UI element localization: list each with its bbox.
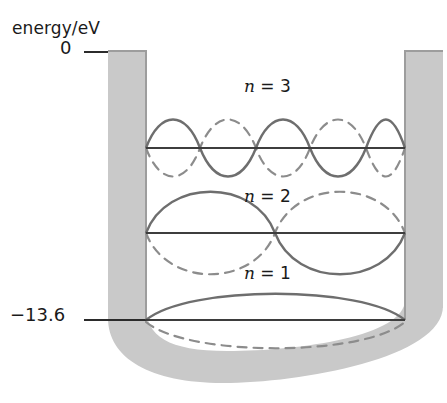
level-n2-group xyxy=(146,192,405,275)
level-n3-group xyxy=(146,120,405,177)
well-right-wall xyxy=(405,50,443,308)
wave-n1-solid xyxy=(146,294,405,320)
diagram-canvas xyxy=(0,0,447,403)
well-left-wall xyxy=(108,50,146,308)
energy-level-diagram: energy/eV 0 −13.6 n = 3 n = 2 n = 1 xyxy=(0,0,447,403)
potential-well-shading xyxy=(108,50,443,383)
